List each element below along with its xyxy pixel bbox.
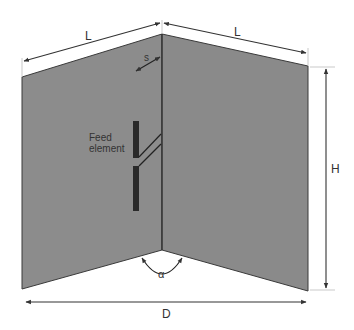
length-right-label: L [234, 25, 241, 39]
spacing-label: s [144, 52, 149, 63]
height-label: H [331, 162, 340, 176]
width-label: D [162, 307, 171, 321]
corner-reflector-diagram: L L H D s Feed element α [0, 0, 354, 330]
right-reflector-panel [162, 34, 308, 291]
angle-label: α [158, 268, 165, 280]
feed-element-label-line2: element [89, 143, 125, 154]
feed-element-label-line1: Feed [89, 132, 112, 143]
length-left-label: L [85, 29, 92, 43]
feed-element-lower-arm [133, 166, 139, 211]
left-reflector-panel [22, 34, 162, 289]
feed-element-upper-arm [133, 121, 139, 158]
